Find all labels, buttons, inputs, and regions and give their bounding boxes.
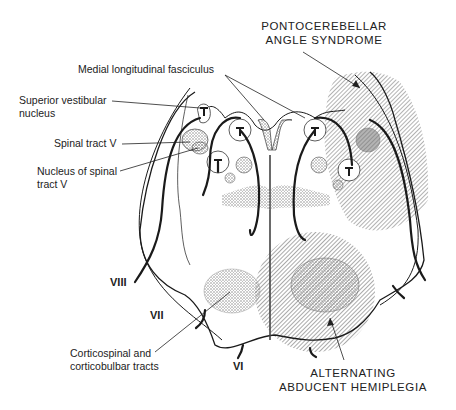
mlf-right — [272, 119, 292, 150]
nerve-viii-label: VIII — [110, 276, 127, 289]
nerve-vi-label: VI — [233, 360, 243, 373]
nuc-spinal-line2: tract V — [37, 178, 117, 191]
superior-vestibular-nucleus-label: Superior vestibular nucleus — [19, 94, 107, 120]
mlf-left — [258, 119, 272, 150]
nerve-vii-label: VII — [150, 309, 163, 322]
sup-vest-line1: Superior vestibular — [19, 94, 107, 107]
aah-line1: ALTERNATING — [278, 366, 428, 380]
alternating-abducent-hemiplegia-label: ALTERNATING ABDUCENT HEMIPLEGIA — [278, 366, 428, 394]
sup-vest-line2: nucleus — [19, 107, 107, 120]
pontocerebellar-lesion-region — [324, 72, 428, 231]
pcas-line2: ANGLE SYNDROME — [244, 33, 404, 47]
nuc-spinal-leader — [120, 148, 198, 171]
aah-line2: ABDUCENT HEMIPLEGIA — [278, 380, 428, 394]
mlf-label: Medial longitudinal fasciculus — [78, 63, 214, 76]
nuc-spinal-line1: Nucleus of spinal — [37, 165, 117, 178]
cortico-line2: corticobulbar tracts — [70, 360, 159, 373]
pons-diagram — [0, 0, 456, 410]
nerve-vi-root-left — [238, 345, 243, 358]
lesioned-corticospinal-tract — [291, 258, 359, 312]
corticospinal-label: Corticospinal and corticobulbar tracts — [70, 347, 159, 373]
nucleus-spinal-tract-v-label: Nucleus of spinal tract V — [37, 165, 117, 191]
pcas-arrow — [303, 52, 360, 88]
spinal-tract-v-label: Spinal tract V — [54, 137, 116, 150]
mlf-leader-2 — [225, 75, 305, 118]
cortico-line1: Corticospinal and — [70, 347, 159, 360]
pontocerebellar-angle-syndrome-label: PONTOCEREBELLAR ANGLE SYNDROME — [244, 19, 404, 47]
pcas-line1: PONTOCEREBELLAR — [244, 19, 404, 33]
